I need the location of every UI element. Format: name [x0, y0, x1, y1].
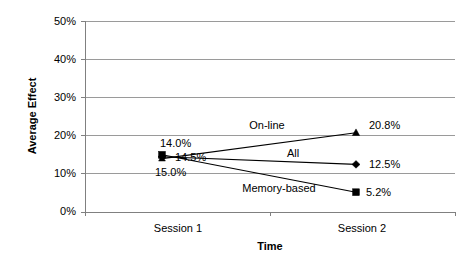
- x-tick-label-session-1: Session 1: [154, 222, 202, 234]
- data-label-all-session-2: 12.5%: [369, 158, 400, 170]
- data-label-memory-session-2: 5.2%: [366, 186, 391, 198]
- y-tick-label-50: 50%: [54, 15, 76, 27]
- data-label-all-session-1: 14.5%: [175, 151, 206, 163]
- data-label-memory-session-1: 15.0%: [155, 166, 186, 178]
- x-tick-label-session-2: Session 2: [338, 222, 386, 234]
- chart-container: 50% 40% 30% 20% 10% 0% Session 1 Session…: [0, 0, 476, 259]
- data-label-online-session-1: 14.0%: [160, 137, 191, 149]
- series-memory-based-marker-session-1: [159, 151, 166, 158]
- x-axis-title: Time: [257, 240, 282, 252]
- y-tick-label-0: 0%: [60, 205, 76, 217]
- series-label-all: All: [287, 147, 299, 159]
- data-label-online-session-2: 20.8%: [369, 119, 400, 131]
- y-tick-label-20: 20%: [54, 129, 76, 141]
- series-memory-based-marker-session-2: [353, 189, 360, 196]
- line-chart: 50% 40% 30% 20% 10% 0% Session 1 Session…: [0, 0, 476, 259]
- y-tick-label-40: 40%: [54, 53, 76, 65]
- series-label-online: On-line: [249, 119, 284, 131]
- y-tick-label-10: 10%: [54, 167, 76, 179]
- series-label-memory-based: Memory-based: [242, 182, 315, 194]
- y-tick-label-30: 30%: [54, 91, 76, 103]
- y-axis-title: Average Effect: [26, 77, 38, 154]
